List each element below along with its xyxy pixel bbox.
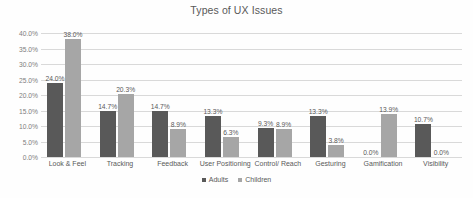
x-axis-tick-label: Look & Feel bbox=[41, 160, 94, 167]
bar-group: 13.3%3.8% bbox=[304, 33, 357, 157]
y-axis-tick-label: 0.0% bbox=[0, 154, 38, 161]
y-axis: 0.0%5.0%10.0%15.0%20.0%25.0%30.0%35.0%40… bbox=[0, 33, 38, 157]
bar-rect bbox=[223, 137, 239, 157]
bar-adults[interactable]: 14.7% bbox=[152, 111, 168, 157]
bar-value-label: 13.3% bbox=[203, 108, 222, 115]
x-axis-tick-label: User Positioning bbox=[199, 160, 252, 167]
x-axis: Look & FeelTrackingFeedbackUser Position… bbox=[41, 158, 462, 172]
y-axis-tick-label: 40.0% bbox=[0, 30, 38, 37]
bar-value-label: 13.9% bbox=[379, 106, 398, 113]
bar-adults[interactable]: 14.7% bbox=[100, 111, 116, 157]
bar-value-label: 3.8% bbox=[329, 137, 344, 144]
bar-rect bbox=[170, 129, 186, 157]
x-axis-tick-label: Gesturing bbox=[304, 160, 357, 167]
bar-value-label: 8.9% bbox=[276, 121, 291, 128]
bar-group: 14.7%20.3% bbox=[94, 33, 147, 157]
bar-rect bbox=[47, 83, 63, 157]
y-axis-tick-label: 30.0% bbox=[0, 61, 38, 68]
bar-group: 9.3%8.9% bbox=[252, 33, 305, 157]
bar-children[interactable]: 6.3% bbox=[223, 137, 239, 157]
legend-label: Adults bbox=[209, 176, 228, 183]
bar-adults[interactable]: 0.0% bbox=[363, 157, 379, 158]
bar-value-label: 14.7% bbox=[151, 103, 170, 110]
bar-group: 13.3%6.3% bbox=[199, 33, 252, 157]
x-axis-tick-label: Feedback bbox=[146, 160, 199, 167]
y-axis-tick-label: 35.0% bbox=[0, 45, 38, 52]
legend-item-children[interactable]: Children bbox=[238, 176, 271, 183]
bar-rect bbox=[205, 116, 221, 157]
bar-adults[interactable]: 13.3% bbox=[310, 116, 326, 157]
bar-group: 0.0%13.9% bbox=[357, 33, 410, 157]
bar-rect bbox=[415, 124, 431, 157]
bar-value-label: 0.0% bbox=[363, 149, 378, 156]
chart-legend: AdultsChildren bbox=[0, 176, 473, 183]
bar-value-label: 24.0% bbox=[46, 75, 65, 82]
bar-rect bbox=[65, 39, 81, 157]
bar-children[interactable]: 13.9% bbox=[381, 114, 397, 157]
bar-value-label: 0.0% bbox=[434, 149, 449, 156]
legend-swatch-icon bbox=[202, 178, 206, 182]
bar-rect bbox=[328, 145, 344, 157]
bar-children[interactable]: 8.9% bbox=[276, 129, 292, 157]
bar-value-label: 14.7% bbox=[98, 103, 117, 110]
bar-value-label: 6.3% bbox=[223, 129, 238, 136]
bar-rect bbox=[381, 114, 397, 157]
bar-value-label: 13.3% bbox=[309, 108, 328, 115]
bar-value-label: 8.9% bbox=[171, 121, 186, 128]
x-axis-tick-label: Control/ Reach bbox=[252, 160, 305, 167]
bar-children[interactable]: 3.8% bbox=[328, 145, 344, 157]
bar-value-label: 10.7% bbox=[414, 116, 433, 123]
bar-rect bbox=[100, 111, 116, 157]
bar-adults[interactable]: 13.3% bbox=[205, 116, 221, 157]
bar-series-layer: 24.0%38.0%14.7%20.3%14.7%8.9%13.3%6.3%9.… bbox=[41, 33, 462, 157]
x-axis-tick-label: Tracking bbox=[94, 160, 147, 167]
y-axis-tick-label: 25.0% bbox=[0, 76, 38, 83]
bar-adults[interactable]: 9.3% bbox=[258, 128, 274, 157]
bar-rect bbox=[152, 111, 168, 157]
bar-children[interactable]: 38.0% bbox=[65, 39, 81, 157]
bar-adults[interactable]: 24.0% bbox=[47, 83, 63, 157]
legend-swatch-icon bbox=[238, 178, 242, 182]
bar-group: 10.7%0.0% bbox=[409, 33, 462, 157]
bar-group: 14.7%8.9% bbox=[146, 33, 199, 157]
bar-children[interactable]: 20.3% bbox=[118, 94, 134, 157]
bar-children[interactable]: 0.0% bbox=[433, 157, 449, 158]
bar-rect bbox=[310, 116, 326, 157]
legend-item-adults[interactable]: Adults bbox=[202, 176, 228, 183]
bar-value-label: 9.3% bbox=[258, 120, 273, 127]
y-axis-tick-label: 10.0% bbox=[0, 123, 38, 130]
y-axis-tick-label: 20.0% bbox=[0, 92, 38, 99]
x-axis-tick-label: Gamification bbox=[357, 160, 410, 167]
bar-rect bbox=[118, 94, 134, 157]
legend-label: Children bbox=[245, 176, 271, 183]
bar-rect bbox=[258, 128, 274, 157]
bar-value-label: 38.0% bbox=[64, 31, 83, 38]
bar-children[interactable]: 8.9% bbox=[170, 129, 186, 157]
bar-value-label: 20.3% bbox=[116, 86, 135, 93]
chart-container: Types of UX Issues 0.0%5.0%10.0%15.0%20.… bbox=[0, 0, 473, 198]
bar-group: 24.0%38.0% bbox=[41, 33, 94, 157]
chart-title: Types of UX Issues bbox=[0, 4, 473, 16]
y-axis-tick-label: 15.0% bbox=[0, 107, 38, 114]
bar-adults[interactable]: 10.7% bbox=[415, 124, 431, 157]
bar-rect bbox=[276, 129, 292, 157]
x-axis-tick-label: Visibility bbox=[409, 160, 462, 167]
y-axis-tick-label: 5.0% bbox=[0, 138, 38, 145]
